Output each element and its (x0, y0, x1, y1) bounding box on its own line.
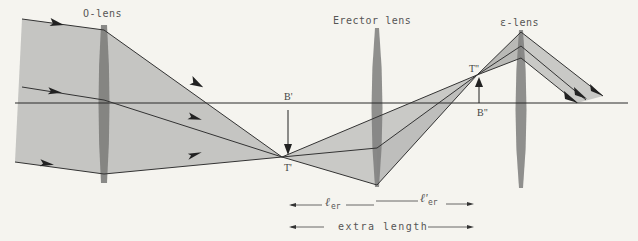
l-er-symbol: ℓ (325, 195, 330, 209)
arrow-icon (189, 76, 205, 89)
t-prime-label: T' (284, 162, 292, 173)
arrow-left-icon (289, 225, 296, 229)
b-double-prime-label: B" (477, 107, 488, 118)
t-double-prime-label: T" (469, 63, 479, 74)
o-lens (99, 25, 110, 183)
arrow-right-icon (467, 202, 474, 206)
b-prime-label: B' (284, 91, 293, 102)
dimension-l-er-prime: ℓ' er (376, 191, 474, 207)
erector-lens-label: Erector lens (333, 15, 411, 26)
o-lens-label: O-lens (83, 8, 122, 19)
arrow-left-icon (289, 203, 296, 207)
incoming-beam (15, 19, 104, 174)
extra-length-label: extra length (338, 221, 428, 232)
dimension-l-er: ℓ er (289, 195, 374, 211)
erector-lens-ray-diagram: O-lens Erector lens ε-lens B' T' T" B" ℓ… (0, 0, 638, 241)
l-er-prime-symbol: ℓ' (420, 191, 428, 205)
e-lens-label: ε-lens (500, 17, 539, 28)
l-er-prime-subscript: er (428, 198, 438, 207)
dimension-extra-length: extra length (289, 221, 474, 232)
arrow-right-icon (467, 225, 474, 229)
converging-beam (104, 30, 282, 174)
l-er-subscript: er (331, 202, 341, 211)
final-image-arrowhead-icon (475, 77, 483, 87)
